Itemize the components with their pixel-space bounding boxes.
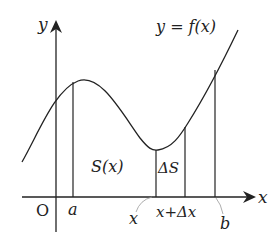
point-x-plus-dx-label: x+Δx xyxy=(156,203,197,221)
area-label: S(x) xyxy=(91,157,123,176)
curve-label: y = f(x) xyxy=(155,17,216,36)
point-b-label: b xyxy=(220,214,230,233)
x-axis-label: x xyxy=(258,187,268,207)
point-a-label: a xyxy=(68,200,78,219)
delta-area-label: ΔS xyxy=(157,159,179,177)
origin-label: O xyxy=(36,201,49,220)
area-diagram: y x O y = f(x) a x x+Δx b S(x) ΔS xyxy=(0,0,277,246)
y-axis-label: y xyxy=(37,14,48,34)
function-curve xyxy=(22,30,238,162)
point-x-label: x xyxy=(129,209,138,228)
leader-b xyxy=(216,198,223,214)
leader-x xyxy=(136,197,152,212)
